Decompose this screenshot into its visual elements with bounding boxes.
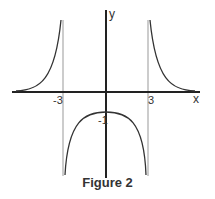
curve-left-branch [16,20,61,91]
curve-right-branch [150,20,195,91]
y-axis-label: y [109,7,115,21]
tick-label-pos3: 3 [148,94,154,106]
x-axis-label: x [193,92,199,106]
figure-caption: Figure 2 [0,175,215,190]
graph: y x -3 3 -1 [0,0,215,199]
tick-label-neg1: -1 [98,114,108,126]
tick-label-neg3: -3 [53,94,63,106]
